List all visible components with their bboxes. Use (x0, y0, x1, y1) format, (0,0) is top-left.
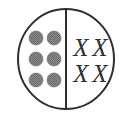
x-mark-3: X (72, 60, 90, 87)
dot-1 (29, 31, 43, 45)
diagram-canvas: X X X X (0, 0, 126, 119)
dot-2 (47, 31, 61, 45)
x-mark-1: X (72, 34, 90, 61)
dot-3 (29, 52, 43, 66)
x-mark-4: X (91, 60, 109, 87)
x-mark-2: X (91, 34, 109, 61)
dot-6 (47, 73, 61, 87)
dot-5 (29, 73, 43, 87)
dot-4 (47, 52, 61, 66)
divided-circle-diagram: X X X X (0, 0, 126, 119)
